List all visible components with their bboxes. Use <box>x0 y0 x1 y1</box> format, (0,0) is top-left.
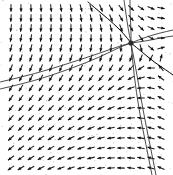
paper-speck <box>85 8 86 9</box>
paper-speck <box>149 73 150 74</box>
paper-speck <box>91 125 92 126</box>
paper-speck <box>168 102 169 103</box>
paper-speck <box>50 152 51 153</box>
paper-speck <box>30 146 31 147</box>
paper-speck <box>165 52 166 53</box>
paper-speck <box>151 159 152 160</box>
paper-speck <box>53 161 54 162</box>
paper-speck <box>2 126 3 127</box>
paper-speck <box>92 135 93 136</box>
paper-speck <box>85 31 86 32</box>
paper-speck <box>138 142 139 143</box>
paper-speck <box>131 124 132 125</box>
paper-speck <box>74 130 75 131</box>
paper-speck <box>145 16 146 17</box>
paper-speck <box>13 143 14 144</box>
paper-speck <box>159 146 160 147</box>
paper-speck <box>155 163 156 164</box>
paper-speck <box>137 131 138 132</box>
paper-speck <box>87 162 88 163</box>
paper-speck <box>105 165 106 166</box>
paper-speck <box>68 150 69 151</box>
paper-speck <box>16 30 17 31</box>
critical-point-layer <box>128 40 133 45</box>
paper-speck <box>170 168 171 169</box>
paper-speck <box>42 8 43 9</box>
paper-speck <box>115 119 116 120</box>
paper-speck <box>157 112 158 113</box>
paper-speck <box>79 133 80 134</box>
paper-speck <box>9 116 10 117</box>
paper-speck <box>148 145 149 146</box>
paper-speck <box>17 39 18 40</box>
paper-speck <box>94 161 95 162</box>
paper-speck <box>157 77 158 78</box>
paper-speck <box>54 124 55 125</box>
paper-speck <box>88 97 89 98</box>
paper-speck <box>116 90 117 91</box>
paper-speck <box>134 33 135 34</box>
paper-speck <box>129 160 130 161</box>
paper-speck <box>130 135 131 136</box>
paper-speck <box>47 124 48 125</box>
paper-speck <box>123 111 124 112</box>
paper-speck <box>120 125 121 126</box>
paper-speck <box>118 114 119 115</box>
direction-field-plot <box>0 0 173 175</box>
paper-speck <box>170 4 171 5</box>
paper-speck <box>46 100 47 101</box>
paper-speck <box>26 79 27 80</box>
paper-speck <box>119 114 120 115</box>
paper-speck <box>113 133 114 134</box>
paper-speck <box>135 139 136 140</box>
paper-speck <box>88 135 89 136</box>
critical-point-saddle <box>128 40 133 45</box>
paper-speck <box>40 113 41 114</box>
paper-speck <box>152 122 153 123</box>
paper-speck <box>160 100 161 101</box>
paper-speck <box>43 160 44 161</box>
paper-speck <box>172 103 173 104</box>
paper-speck <box>85 96 86 97</box>
paper-speck <box>95 56 96 57</box>
paper-speck <box>122 53 123 54</box>
paper-speck <box>126 151 127 152</box>
paper-speck <box>120 64 121 65</box>
paper-speck <box>20 23 21 24</box>
paper-speck <box>94 10 95 11</box>
paper-speck <box>143 94 144 95</box>
paper-speck <box>159 152 160 153</box>
paper-speck <box>138 4 139 5</box>
paper-speck <box>159 81 160 82</box>
paper-speck <box>155 94 156 95</box>
paper-speck <box>169 53 170 54</box>
paper-speck <box>87 152 88 153</box>
paper-speck <box>70 12 71 13</box>
paper-speck <box>65 107 66 108</box>
paper-speck <box>121 101 122 102</box>
paper-speck <box>22 52 23 53</box>
paper-speck <box>84 48 85 49</box>
paper-speck <box>28 3 29 4</box>
paper-speck <box>146 151 147 152</box>
paper-speck <box>150 135 151 136</box>
paper-speck <box>1 42 2 43</box>
paper-speck <box>154 63 155 64</box>
paper-speck <box>1 65 2 66</box>
paper-speck <box>51 136 52 137</box>
paper-speck <box>124 31 125 32</box>
paper-speck <box>22 10 23 11</box>
paper-speck <box>2 0 3 1</box>
paper-speck <box>48 143 49 144</box>
paper-speck <box>97 84 98 85</box>
paper-speck <box>138 65 139 66</box>
paper-speck <box>172 72 173 73</box>
paper-speck <box>148 3 149 4</box>
paper-speck <box>18 90 19 91</box>
paper-speck <box>133 78 134 79</box>
paper-speck <box>84 65 85 66</box>
plot-canvas <box>0 0 173 175</box>
paper-speck <box>59 63 60 64</box>
paper-speck <box>122 50 123 51</box>
paper-speck <box>26 88 27 89</box>
